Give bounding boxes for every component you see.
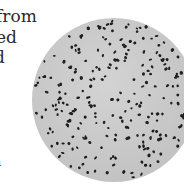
text-line-2: ed [0, 27, 17, 47]
micrograph-circle [32, 18, 184, 182]
text-line-3: d [0, 47, 5, 67]
dot-pattern [32, 18, 184, 182]
text-line-4: a [0, 152, 1, 172]
